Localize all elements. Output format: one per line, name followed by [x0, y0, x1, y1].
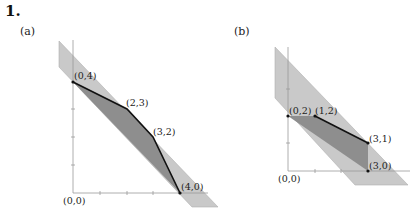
- vertex-label: (0,4): [74, 70, 97, 81]
- vertex-label: (1,2): [315, 105, 338, 116]
- vertex-label: (0,2): [289, 105, 312, 116]
- diagram-canvas: (0,4) (2,3) (3,2) (4,0) (0,0) (0,2) (1,2…: [0, 0, 420, 214]
- panel-b-polytope: [288, 116, 368, 171]
- vertex-label: (3,0): [369, 160, 392, 171]
- vertex-label: (3,1): [369, 133, 392, 144]
- panel-b: (0,2) (1,2) (3,1) (3,0) (0,0): [275, 47, 410, 185]
- panel-a: (0,4) (2,3) (3,2) (4,0) (0,0): [59, 40, 218, 207]
- origin-label: (0,0): [278, 173, 301, 184]
- origin-label: (0,0): [63, 195, 86, 206]
- vertex-label: (3,2): [153, 126, 176, 137]
- vertex-label: (4,0): [181, 181, 204, 192]
- vertex-label: (2,3): [126, 97, 149, 108]
